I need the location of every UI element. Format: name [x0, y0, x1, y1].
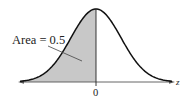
axis-label-z: z — [175, 77, 180, 87]
normal-distribution-figure: Area = 0.5 0 z — [0, 0, 188, 104]
tick-label-zero: 0 — [93, 87, 98, 98]
area-annotation-label: Area = 0.5 — [12, 33, 65, 47]
chart-svg: Area = 0.5 0 z — [0, 0, 188, 104]
